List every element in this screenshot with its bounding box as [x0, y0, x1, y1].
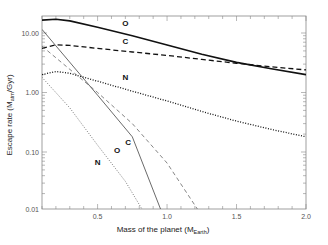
series-line	[42, 72, 306, 137]
x-tick-label: 2.0	[301, 213, 311, 220]
y-tick-label: 0.10	[25, 149, 39, 156]
curve-label: N	[95, 158, 101, 167]
y-axis-label: Escape rate (Matm/Gyr)	[5, 74, 15, 156]
curve-label: O	[114, 146, 120, 155]
x-axis-label: Mass of the planet (MEarth)	[117, 225, 210, 235]
series-line	[42, 46, 199, 211]
y-tick-label: 10.00	[21, 30, 39, 37]
curve-label: N	[122, 73, 128, 82]
series-line	[42, 29, 162, 211]
curve-label: C	[122, 37, 128, 46]
y-tick-label: 0.01	[25, 206, 39, 213]
curve-labels: OCNCON	[95, 19, 132, 167]
curve-label: C	[125, 138, 131, 147]
x-tick-label: 0.5	[93, 213, 103, 220]
plot-axes: 0.51.01.52.010.001.000.100.01	[21, 16, 311, 220]
x-tick-label: 1.5	[232, 213, 242, 220]
plot-series	[42, 19, 306, 211]
plot-frame	[42, 16, 306, 209]
escape-rate-chart: 0.51.01.52.010.001.000.100.01 OCNCON Mas…	[0, 0, 328, 245]
x-tick-label: 1.0	[162, 213, 172, 220]
series-line	[42, 45, 306, 70]
curve-label: O	[122, 19, 128, 28]
y-tick-label: 1.00	[25, 89, 39, 96]
